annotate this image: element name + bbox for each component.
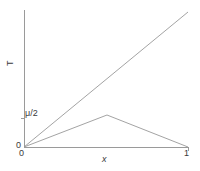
y-tick-label-mu-half: μ/2 bbox=[25, 109, 38, 118]
x-tick-label-one: 1 bbox=[184, 149, 189, 158]
series-tent-function bbox=[24, 115, 188, 147]
plot-canvas bbox=[0, 0, 200, 171]
series-upper-straight-line bbox=[24, 12, 188, 147]
x-origin-label: 0 bbox=[19, 149, 24, 158]
x-axis-label: x bbox=[102, 155, 107, 164]
y-axis-label: T bbox=[6, 61, 15, 67]
figure-container: T μ/2 0 0 x 1 bbox=[0, 0, 200, 171]
